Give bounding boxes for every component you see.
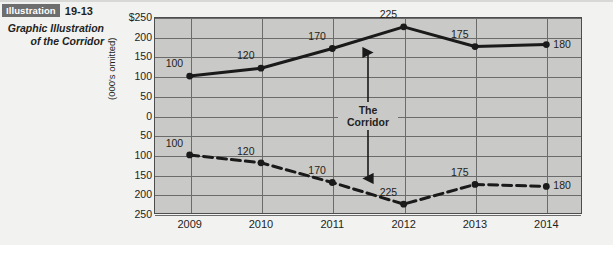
data-point-label: 170 <box>308 31 326 42</box>
data-point-marker <box>186 73 193 80</box>
data-point-label: 175 <box>451 29 469 40</box>
illustration-number: 19-13 <box>65 5 93 17</box>
data-point-label: 225 <box>380 187 398 198</box>
y-tick-label: 50 <box>114 91 152 101</box>
corridor-label-line2: Corridor <box>347 116 389 128</box>
data-point-label: 120 <box>237 146 255 157</box>
data-point-label: 100 <box>166 138 184 149</box>
x-tick-label: 2014 <box>523 218 569 230</box>
figure-title: Graphic Illustration of the Corridor <box>2 22 104 48</box>
x-axis-ticks: 200920102011201220132014 <box>154 218 582 234</box>
data-point-marker <box>329 45 336 52</box>
x-tick-label: 2010 <box>238 218 284 230</box>
data-point-marker <box>258 159 265 166</box>
corridor-annotation-label: TheCorridor <box>338 102 398 130</box>
card-top-rule <box>0 0 613 2</box>
y-tick-label: 250 <box>114 209 152 219</box>
data-point-marker <box>400 23 407 30</box>
y-axis-ticks: $25020015010050050100150200250 <box>112 8 152 223</box>
y-tick-label: 100 <box>114 150 152 160</box>
y-tick-label: 200 <box>114 32 152 42</box>
data-point-marker <box>329 179 336 186</box>
figure-title-line2: of the Corridor <box>31 35 105 47</box>
y-tick-label: 0 <box>114 111 152 121</box>
gridline-horizontal <box>155 215 581 216</box>
data-point-marker <box>400 201 407 208</box>
data-point-label: 120 <box>237 50 255 61</box>
corridor-label-line1: The <box>359 104 378 116</box>
illustration-line: Illustration 19-13 <box>2 4 108 17</box>
data-point-marker <box>543 41 550 48</box>
x-tick-label: 2009 <box>167 218 213 230</box>
x-tick-label: 2011 <box>309 218 355 230</box>
data-point-label: 170 <box>308 165 326 176</box>
figure-title-line1: Graphic Illustration <box>8 22 104 34</box>
y-tick-label: 50 <box>114 130 152 140</box>
data-point-marker <box>258 65 265 72</box>
data-point-label: 100 <box>166 58 184 69</box>
corridor-chart: (000's omitted) $25020015010050050100150… <box>112 8 592 238</box>
data-point-marker <box>543 183 550 190</box>
data-point-label: 225 <box>380 9 398 20</box>
figure-card: Illustration 19-13 Graphic Illustration … <box>0 0 613 245</box>
y-tick-label: $250 <box>114 12 152 22</box>
y-tick-label: 150 <box>114 170 152 180</box>
data-point-marker <box>472 43 479 50</box>
illustration-badge: Illustration <box>2 4 60 17</box>
data-point-marker <box>472 181 479 188</box>
y-tick-label: 200 <box>114 189 152 199</box>
data-point-marker <box>186 152 193 159</box>
x-tick-label: 2013 <box>452 218 498 230</box>
data-point-label: 180 <box>553 180 571 191</box>
figure-caption-block: Illustration 19-13 Graphic Illustration … <box>2 4 108 48</box>
y-tick-label: 100 <box>114 71 152 81</box>
data-point-label: 175 <box>451 167 469 178</box>
x-tick-label: 2012 <box>381 218 427 230</box>
data-point-label: 180 <box>553 39 571 50</box>
y-tick-label: 150 <box>114 51 152 61</box>
